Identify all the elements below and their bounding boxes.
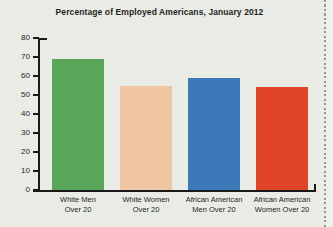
y-axis-top-cap xyxy=(38,38,47,40)
x-axis-label: African AmericanWomen Over 20 xyxy=(238,195,326,215)
x-axis-label-line: African American xyxy=(238,195,326,205)
x-axis-right-cap xyxy=(314,184,316,192)
bar-african-american-men-over-20 xyxy=(188,78,240,190)
page-edge-strip xyxy=(326,0,333,227)
y-tick-label: 10 xyxy=(6,167,30,175)
y-tick-mark xyxy=(33,151,39,152)
y-tick-label: 0 xyxy=(6,186,30,194)
y-tick-mark xyxy=(33,94,39,95)
y-tick-label: 40 xyxy=(6,110,30,118)
y-tick-mark xyxy=(33,170,39,171)
y-tick-mark xyxy=(33,189,39,190)
y-tick-mark xyxy=(33,56,39,57)
y-tick-label: 60 xyxy=(6,72,30,80)
y-tick-mark xyxy=(33,75,39,76)
y-tick-label: 20 xyxy=(6,148,30,156)
bar-white-men-over-20 xyxy=(52,59,104,190)
bar-african-american-women-over-20 xyxy=(256,87,308,190)
y-tick-label: 50 xyxy=(6,91,30,99)
x-axis-line xyxy=(33,190,316,192)
workbook-page: Percentage of Employed Americans, Januar… xyxy=(0,0,333,227)
x-axis-label-line: Women Over 20 xyxy=(238,205,326,215)
y-tick-label: 80 xyxy=(6,34,30,42)
bar-chart: 80706050403020100 White MenOver 20White … xyxy=(0,0,333,227)
y-tick-mark xyxy=(33,113,39,114)
y-tick-label: 30 xyxy=(6,129,30,137)
y-tick-mark xyxy=(33,132,39,133)
y-tick-mark xyxy=(33,37,39,38)
y-tick-label: 70 xyxy=(6,53,30,61)
bar-white-women-over-20 xyxy=(120,86,172,191)
